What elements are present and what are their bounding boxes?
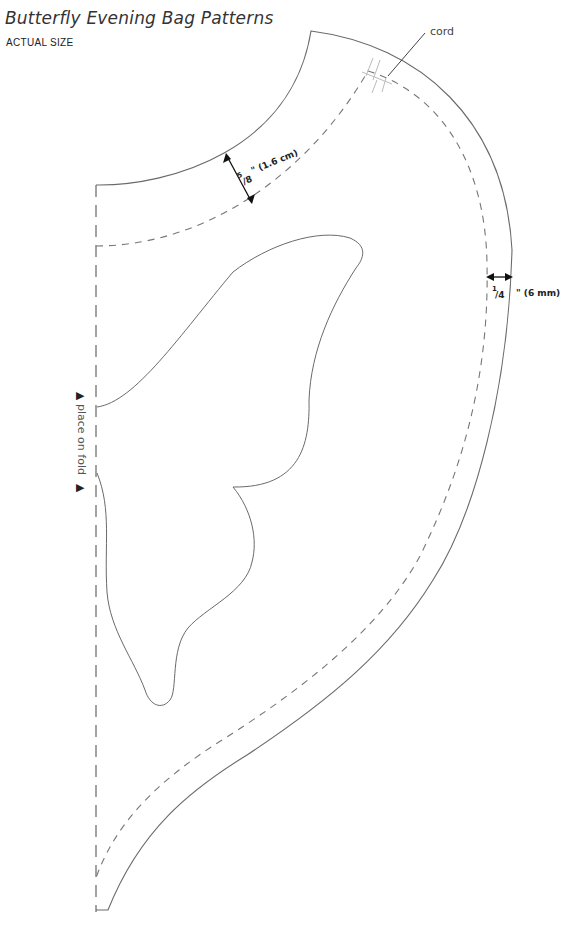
cord-leader-line: [388, 33, 425, 76]
pattern-diagram: cord 5 /8 " (1.6 cm) 1 /4 " (6 mm) ▶ pla…: [0, 0, 573, 930]
fold-instruction: ▶ place on fold ▶: [75, 389, 88, 494]
cord-label: cord: [430, 25, 454, 38]
arrow-right-icon: [505, 273, 513, 281]
seam-top-dimension: 5 /8 " (1.6 cm): [223, 148, 302, 204]
seam-side-dimension: 1 /4 " (6 mm): [486, 273, 560, 300]
fold-marker-top-icon: ▶: [76, 389, 85, 402]
butterfly-wing-outline: [97, 235, 363, 705]
outer-cut-line: [96, 31, 512, 910]
svg-text:/4: /4: [495, 290, 505, 300]
svg-text:" (6 mm): " (6 mm): [516, 288, 560, 298]
svg-text:" (1.6 cm): " (1.6 cm): [249, 148, 299, 176]
seam-allowance-line: [96, 71, 487, 878]
fold-marker-bottom-icon: ▶: [76, 481, 85, 494]
cord-marks: [362, 58, 392, 93]
fold-label: place on fold: [75, 404, 88, 475]
